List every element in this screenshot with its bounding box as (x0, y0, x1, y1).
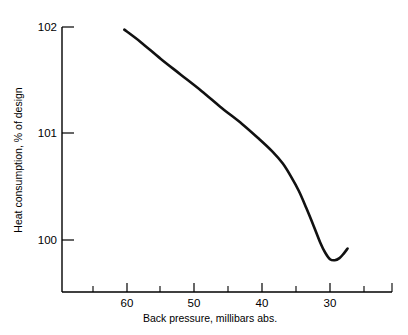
x-tick-label-60: 60 (121, 297, 134, 309)
chart-figure: 102 101 100 60 50 40 30 (0, 0, 408, 335)
x-axis-title: Back pressure, millibars abs. (143, 312, 277, 324)
y-tick-label-101: 101 (38, 127, 57, 139)
y-axis-ticks (62, 27, 74, 240)
x-axis-tick-labels: 60 50 40 30 (121, 297, 337, 309)
data-series-heat-consumption (124, 30, 347, 261)
y-axis-title: Heat consumption, % of design (12, 87, 24, 232)
chart-canvas: 102 101 100 60 50 40 30 (0, 0, 408, 335)
x-tick-label-50: 50 (188, 297, 201, 309)
y-axis-tick-labels: 102 101 100 (38, 21, 57, 246)
y-tick-label-100: 100 (38, 234, 57, 246)
x-tick-label-40: 40 (256, 297, 269, 309)
y-tick-label-102: 102 (38, 21, 57, 33)
x-axis-ticks-minor (93, 283, 392, 292)
x-tick-label-30: 30 (324, 297, 337, 309)
